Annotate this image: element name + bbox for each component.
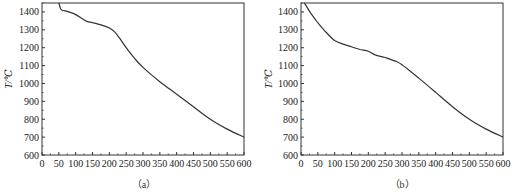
x-tick-label: 250: [119, 158, 134, 169]
x-tick-label: 300: [136, 158, 151, 169]
x-tick-label: 450: [445, 158, 460, 169]
x-tick-label: 0: [40, 158, 45, 169]
x-tick-label: 100: [68, 158, 83, 169]
chart-panel-a: 0501001502002503003504004505005506006007…: [0, 0, 256, 195]
panel-caption-b: （b）: [382, 176, 422, 191]
x-tick-label: 0: [299, 158, 304, 169]
x-tick-label: 200: [102, 158, 117, 169]
data-line-a: [59, 3, 244, 137]
y-tick-label: 1200: [19, 42, 39, 53]
x-tick-label: 400: [169, 158, 184, 169]
x-tick-label: 50: [313, 158, 323, 169]
y-tick-label: 1400: [278, 6, 298, 17]
y-tick-label: 1100: [278, 60, 298, 71]
plot-frame: [42, 3, 244, 155]
x-tick-label: 450: [186, 158, 201, 169]
y-tick-label: 900: [24, 96, 39, 107]
x-tick-label: 250: [378, 158, 393, 169]
y-tick-label: 900: [283, 96, 298, 107]
x-tick-label: 300: [395, 158, 410, 169]
x-tick-label: 350: [152, 158, 167, 169]
x-tick-label: 350: [411, 158, 426, 169]
y-tick-label: 1300: [278, 24, 298, 35]
y-tick-label: 1400: [19, 6, 39, 17]
y-tick-label: 600: [283, 150, 298, 161]
y-tick-label: 1000: [19, 78, 39, 89]
x-tick-label: 550: [220, 158, 235, 169]
data-line-b: [304, 3, 503, 137]
line-chart-a: 0501001502002503003504004505005506006007…: [0, 0, 256, 170]
chart-panel-b: 0501001502002503003504004505005506006007…: [256, 0, 513, 195]
x-tick-label: 500: [203, 158, 218, 169]
y-tick-label: 800: [24, 114, 39, 125]
y-tick-label: 600: [24, 150, 39, 161]
y-axis-label: T/℃: [3, 69, 14, 89]
x-tick-label: 400: [428, 158, 443, 169]
y-axis-label: T/℃: [263, 69, 274, 89]
x-tick-label: 200: [361, 158, 376, 169]
panel-caption-a: （a）: [124, 176, 164, 191]
y-tick-label: 1000: [278, 78, 298, 89]
x-tick-label: 500: [462, 158, 477, 169]
x-tick-label: 550: [479, 158, 494, 169]
y-tick-label: 700: [24, 132, 39, 143]
y-tick-label: 700: [283, 132, 298, 143]
x-tick-label: 150: [344, 158, 359, 169]
x-tick-label: 600: [496, 158, 511, 169]
x-tick-label: 50: [54, 158, 64, 169]
plot-frame: [301, 3, 503, 155]
line-chart-b: 0501001502002503003504004505005506006007…: [256, 0, 513, 170]
x-tick-label: 100: [327, 158, 342, 169]
y-tick-label: 800: [283, 114, 298, 125]
y-tick-label: 1200: [278, 42, 298, 53]
y-tick-label: 1100: [19, 60, 39, 71]
x-tick-label: 150: [85, 158, 100, 169]
y-tick-label: 1300: [19, 24, 39, 35]
x-tick-label: 600: [237, 158, 252, 169]
